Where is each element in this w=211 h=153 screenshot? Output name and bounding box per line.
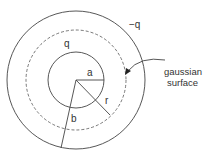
radius-b-label: b (71, 113, 77, 124)
callout-label-line2: surface (167, 77, 198, 88)
callout-arrow (128, 59, 165, 71)
callout-label-line1: gaussian (164, 66, 202, 77)
radius-r-label: r (105, 95, 109, 106)
inner-charge-label: q (64, 38, 70, 49)
outer-charge-label: −q (129, 19, 140, 30)
radius-a-label: a (87, 67, 93, 78)
gauss-diagram: q −q a r b gaussian surface (0, 0, 211, 153)
